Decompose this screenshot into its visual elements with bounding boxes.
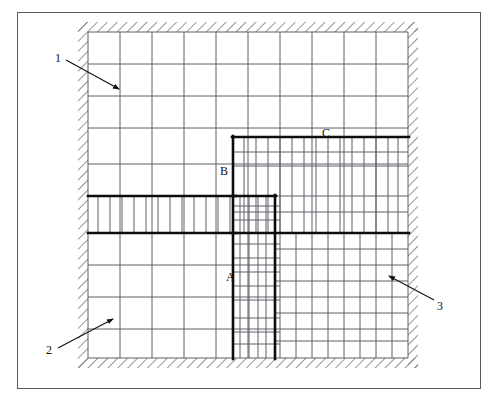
wall-left <box>78 22 88 368</box>
wall-right <box>408 22 418 368</box>
wall-bottom <box>78 358 418 368</box>
refined-block-c-group <box>233 137 408 233</box>
wall-top <box>78 22 418 32</box>
figure-stage: 1 2 3 A B C <box>0 0 492 402</box>
node-label-a: A <box>226 271 235 283</box>
refined-band-left-group <box>98 196 230 233</box>
callout-label-1: 1 <box>55 52 61 64</box>
mesh-diagram <box>0 0 492 402</box>
refined-column-a-group <box>233 196 280 358</box>
callout-label-3: 3 <box>437 300 443 312</box>
callout-label-2: 2 <box>46 344 52 356</box>
refined-lower-right-group <box>275 233 408 358</box>
node-label-b: B <box>220 165 228 177</box>
node-label-c: C <box>322 127 330 139</box>
callout-leader-group <box>58 60 434 348</box>
